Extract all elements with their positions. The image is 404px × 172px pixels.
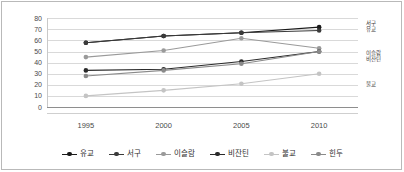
legend-label: 힌두 xyxy=(329,150,343,158)
series-힌두 xyxy=(84,49,322,78)
chart-legend: 유교서구이슬람비잔틴불교힌두 xyxy=(0,143,404,165)
legend-marker-icon xyxy=(264,151,279,158)
data-point xyxy=(84,94,89,99)
data-point xyxy=(161,34,166,39)
legend-marker-icon xyxy=(156,151,171,158)
data-point xyxy=(317,28,322,33)
series-end-label: 서구유교 xyxy=(366,20,376,32)
legend-item-힌두[interactable]: 힌두 xyxy=(311,150,343,158)
legend-dot xyxy=(215,152,220,157)
series-line xyxy=(86,31,319,43)
legend-marker-icon xyxy=(109,151,124,158)
series-end-label: 이슬람비잔틴 xyxy=(366,50,381,62)
series-불교 xyxy=(84,71,322,98)
data-point xyxy=(239,36,244,41)
data-point xyxy=(317,71,322,76)
data-point xyxy=(239,30,244,35)
data-point xyxy=(161,48,166,53)
data-point xyxy=(317,49,322,54)
data-point xyxy=(239,61,244,66)
series-비잔틴 xyxy=(84,49,322,72)
series-line xyxy=(86,74,319,96)
legend-item-불교[interactable]: 불교 xyxy=(264,150,296,158)
end-label-line: 비잔틴 xyxy=(366,56,381,62)
data-point xyxy=(84,74,89,79)
legend-dot xyxy=(161,152,166,157)
series-line xyxy=(86,52,319,76)
legend-label: 비잔틴 xyxy=(228,150,249,158)
series-서구 xyxy=(84,28,322,45)
series-line xyxy=(86,27,319,43)
legend-marker-icon xyxy=(311,151,326,158)
chart-screenshot: 01020304050607080 1995200020052010 서구유교이… xyxy=(0,0,404,172)
legend-dot xyxy=(316,152,321,157)
legend-marker-icon xyxy=(62,151,77,158)
legend-item-비잔틴[interactable]: 비잔틴 xyxy=(210,150,249,158)
end-label-line: 불교 xyxy=(366,81,376,87)
legend-label: 서구 xyxy=(127,150,141,158)
legend-marker-icon xyxy=(210,151,225,158)
data-point xyxy=(84,40,89,45)
legend-dot xyxy=(114,152,119,157)
legend-label: 불교 xyxy=(282,150,296,158)
legend-dot xyxy=(67,152,72,157)
legend-item-이슬람[interactable]: 이슬람 xyxy=(156,150,195,158)
end-label-line: 유교 xyxy=(366,26,376,32)
data-point xyxy=(84,55,89,60)
series-end-label: 불교 xyxy=(366,81,376,87)
data-point xyxy=(161,68,166,73)
data-point xyxy=(239,81,244,86)
data-point xyxy=(84,68,89,73)
legend-item-서구[interactable]: 서구 xyxy=(109,150,141,158)
series-유교 xyxy=(84,25,322,45)
data-point xyxy=(161,88,166,93)
legend-dot xyxy=(269,152,274,157)
series-line xyxy=(86,38,319,57)
legend-label: 유교 xyxy=(80,150,94,158)
legend-label: 이슬람 xyxy=(174,150,195,158)
legend-item-유교[interactable]: 유교 xyxy=(62,150,94,158)
